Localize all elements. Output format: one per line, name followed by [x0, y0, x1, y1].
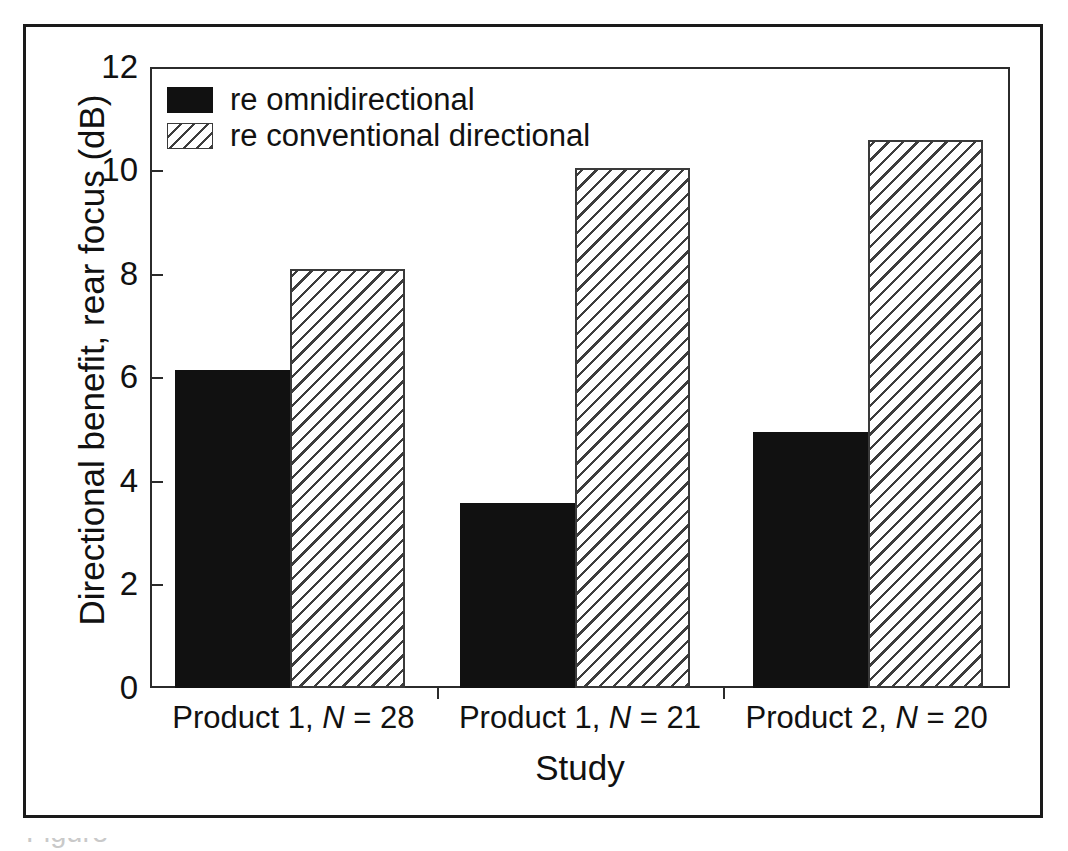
legend-item-omnidirectional: re omnidirectional [167, 84, 590, 115]
caption-strip: Figure [26, 838, 1036, 851]
x-tick-label-group-1: Product 1, N = 28 [150, 700, 437, 746]
legend-swatch-solid-icon [167, 87, 213, 113]
y-tick-label-0: 0 [92, 669, 138, 707]
caption-text: Figure [26, 838, 108, 849]
y-tick-mark-8 [150, 274, 163, 276]
y-tick-mark-6 [150, 377, 163, 379]
x-tick-label-2-suffix: = 21 [631, 700, 701, 735]
y-axis-tick-labels: 0 2 4 6 8 10 12 [82, 0, 138, 851]
x-tick-mark-1 [437, 688, 439, 699]
legend-label-conventional-directional: re conventional directional [230, 120, 590, 151]
plot-frame [150, 67, 1010, 688]
x-axis-tick-labels: Product 1, N = 28 Product 1, N = 21 Prod… [150, 700, 1010, 746]
legend: re omnidirectional re conventional direc… [167, 84, 590, 151]
x-tick-label-1-prefix: Product 1, [172, 700, 322, 735]
x-tick-label-1-italic-n: N [322, 700, 344, 735]
y-tick-label-4: 4 [92, 462, 138, 500]
y-tick-label-8: 8 [92, 255, 138, 293]
x-tick-label-2-italic-n: N [609, 700, 631, 735]
x-tick-mark-2 [723, 688, 725, 699]
x-tick-label-1-suffix: = 28 [345, 700, 415, 735]
y-tick-label-12: 12 [92, 48, 138, 86]
y-tick-label-6: 6 [92, 358, 138, 396]
y-tick-mark-10 [150, 170, 163, 172]
legend-label-omnidirectional: re omnidirectional [230, 84, 475, 115]
x-tick-label-3-prefix: Product 2, [746, 700, 896, 735]
x-tick-label-3-suffix: = 20 [918, 700, 988, 735]
bar-chart: Directional benefit, rear focus (dB) 0 2… [0, 0, 1068, 851]
legend-item-conventional-directional: re conventional directional [167, 120, 590, 151]
x-tick-label-2-prefix: Product 1, [459, 700, 609, 735]
y-tick-label-10: 10 [92, 151, 138, 189]
y-tick-mark-2 [150, 584, 163, 586]
y-tick-mark-4 [150, 481, 163, 483]
x-tick-label-group-3: Product 2, N = 20 [723, 700, 1010, 746]
y-tick-label-2: 2 [92, 565, 138, 603]
x-tick-label-3-italic-n: N [896, 700, 918, 735]
legend-swatch-hatched-icon [167, 123, 213, 149]
x-tick-label-group-2: Product 1, N = 21 [437, 700, 724, 746]
x-axis-title: Study [150, 748, 1010, 788]
